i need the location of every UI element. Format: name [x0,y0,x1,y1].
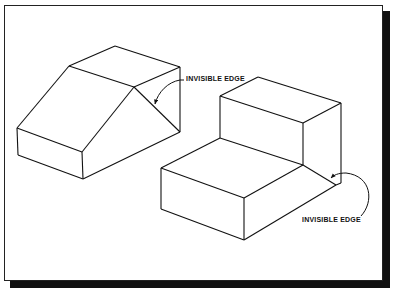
edge-line [244,165,303,198]
invisible-edge-label-1: INVISIBLE EDGE [186,75,245,82]
edge-line [18,155,83,179]
edge-line [134,67,180,87]
left-sloped-block [17,46,180,179]
isometric-drawing [0,0,394,288]
edge-line [82,152,83,179]
edge-line [82,87,134,152]
edge-line [303,103,341,123]
edge-line [69,66,134,87]
edge-line [161,138,220,168]
edge-line [161,168,244,198]
edge-line [244,185,336,240]
edge-line [69,46,115,66]
edge-line [134,87,180,132]
edge-line [336,183,341,185]
invisible-edge-label-2: INVISIBLE EDGE [302,216,361,223]
edge-line [220,96,303,123]
edge-line [115,46,180,67]
edge-line [83,132,180,179]
edge-line [17,128,18,155]
edge-line [220,138,303,165]
edge-line [17,128,82,152]
edge-line [303,165,336,185]
edge-line [258,77,341,103]
leader-arrow-2 [331,173,369,216]
edge-line [17,66,69,128]
edge-line [161,209,244,240]
